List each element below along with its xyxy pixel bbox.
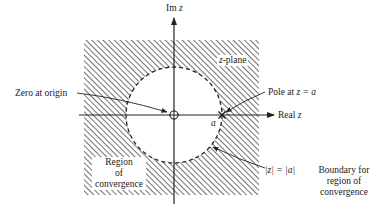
zero-annotation: Zero at origin — [15, 88, 67, 99]
imaginary-axis-label: Im z — [166, 3, 183, 14]
pole-point-label: a — [211, 118, 216, 129]
real-axis-label: Real z — [278, 110, 302, 121]
region-of-convergence-label: Region of convergence — [92, 157, 146, 190]
pole-annotation: Pole at z = a — [268, 87, 316, 98]
z-plane-label: z-plane — [217, 55, 248, 66]
boundary-equation: |z| = |a| — [265, 165, 295, 176]
boundary-annotation: Boundary for region of convergence — [308, 165, 380, 198]
